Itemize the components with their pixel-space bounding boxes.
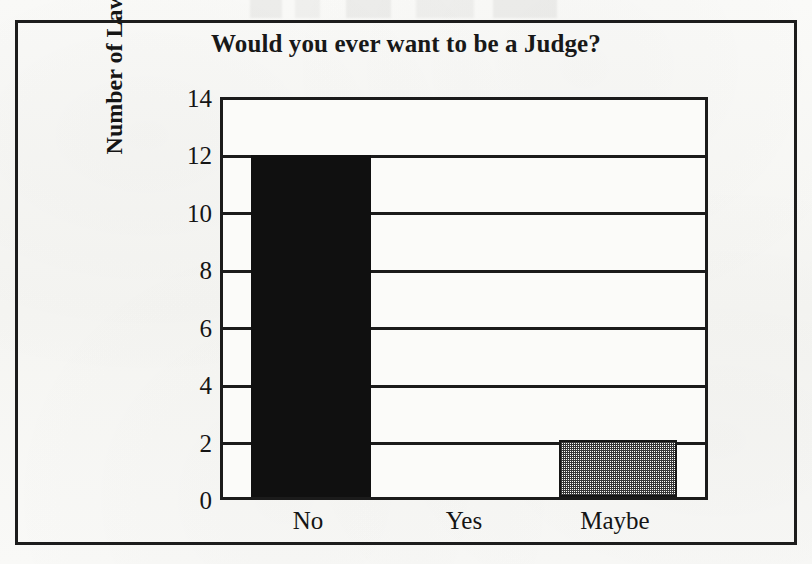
y-tick-label: 6 — [166, 316, 212, 341]
bars-layer — [223, 100, 705, 497]
x-axis-tick-labels: No Yes Maybe — [220, 508, 708, 548]
chart-page: Would you ever want to be a Judge? Numbe… — [0, 0, 812, 564]
x-tick-label-maybe: Maybe — [556, 508, 674, 533]
y-tick-label: 0 — [166, 488, 212, 513]
y-tick-label: 12 — [166, 143, 212, 168]
x-tick-label-no: No — [248, 508, 368, 533]
y-tick-label: 10 — [166, 201, 212, 226]
plot-area — [220, 97, 708, 500]
chart-title: Would you ever want to be a Judge? — [15, 30, 797, 58]
y-tick-label: 14 — [166, 86, 212, 111]
y-axis-title: Number of Lawyers — [96, 0, 132, 192]
y-tick-label: 8 — [166, 258, 212, 283]
page-bleed-through-artifact — [250, 0, 570, 18]
bar-no[interactable] — [251, 155, 371, 497]
y-tick-label: 2 — [166, 431, 212, 456]
y-axis-tick-labels: 0 2 4 6 8 10 12 14 — [160, 97, 212, 500]
bar-maybe[interactable] — [559, 440, 677, 497]
y-tick-label: 4 — [166, 373, 212, 398]
x-tick-label-yes: Yes — [404, 508, 524, 533]
